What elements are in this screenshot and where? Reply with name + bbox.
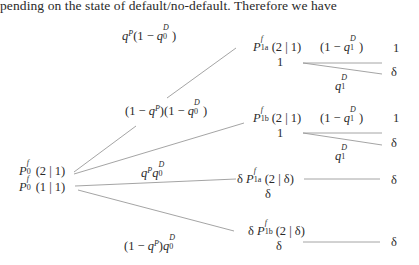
branch-prob-4: (1 − qP)qD0 xyxy=(124,240,178,253)
node-1b-price: Pf1b(2 | 1) xyxy=(253,112,301,125)
tree-edges xyxy=(0,0,419,265)
payoff-1a-bottom: δ xyxy=(391,66,397,79)
edge-root-n1a-upper xyxy=(167,48,236,98)
node-1a-payoff: 1 xyxy=(277,56,283,69)
payoff-1a-top: 1 xyxy=(393,42,399,55)
branch-prob-3: qPqD0 xyxy=(141,167,167,180)
stage2-prob-nodefault-a: (1 − qD1) xyxy=(320,41,363,54)
root-node-price-1: Pf0(1 | 1) xyxy=(19,181,65,194)
payoff-1b-bottom: δ xyxy=(391,137,397,150)
node-2b-price: δ Pf1b(2 | δ) xyxy=(248,225,305,238)
payoff-2b: δ xyxy=(391,236,397,249)
stage2-prob-default-a: qD1 xyxy=(335,80,350,93)
payoff-2a: δ xyxy=(391,174,397,187)
node-2a-price: δ Pf1a(2 | δ) xyxy=(237,173,294,186)
stage2-prob-nodefault-b: (1 − qD1) xyxy=(320,112,363,125)
node-2b-payoff: δ xyxy=(276,240,282,253)
payoff-1b-top: 1 xyxy=(393,112,399,125)
node-1b-payoff: 1 xyxy=(277,127,283,140)
stage2-prob-default-b: qD1 xyxy=(335,150,350,163)
edge-root-n2b xyxy=(78,190,234,231)
edge-root-n2a xyxy=(75,179,236,186)
branch-prob-1: qP(1 − qD0) xyxy=(122,30,176,43)
node-2a-payoff: δ xyxy=(265,188,271,201)
node-1a-price: Pf1a(2 | 1) xyxy=(253,41,301,54)
branch-prob-2: (1 − qP)(1 − qD0) xyxy=(125,105,207,118)
